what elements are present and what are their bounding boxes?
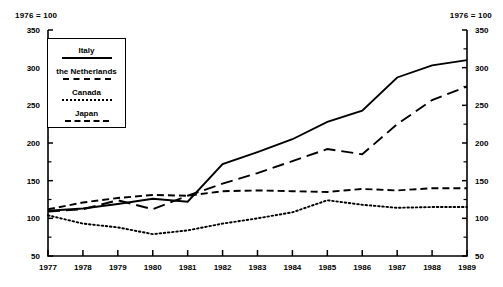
y-axis-tick-label-right: 100 xyxy=(475,214,489,223)
legend-entry-japan: Japan xyxy=(48,109,125,122)
x-axis-tick-label: 1985 xyxy=(318,263,336,272)
legend-line-swatch xyxy=(65,120,109,122)
y-axis-tick-label-left: 50 xyxy=(31,252,40,261)
y-axis-tick-label-right: 350 xyxy=(475,26,489,35)
y-axis-tick-label-right: 250 xyxy=(475,101,489,110)
legend-label: Canada xyxy=(48,88,125,98)
x-axis-tick-label: 1986 xyxy=(353,263,371,272)
chart-legend: Italythe NetherlandsCanadaJapan xyxy=(47,38,126,128)
legend-entry-canada: Canada xyxy=(48,88,125,101)
x-axis-tick-label: 1977 xyxy=(39,263,57,272)
legend-entry-italy: Italy xyxy=(48,46,125,59)
legend-entry-the-netherlands: the Netherlands xyxy=(48,67,125,80)
y-axis-tick-label-right: 300 xyxy=(475,64,489,73)
y-axis-tick-label-left: 150 xyxy=(27,177,41,186)
x-axis-tick-label: 1980 xyxy=(144,263,162,272)
legend-line-swatch xyxy=(62,99,112,101)
x-axis-tick-label: 1978 xyxy=(74,263,92,272)
y-axis-tick-label-left: 200 xyxy=(27,139,41,148)
y-axis-tick-label-left: 250 xyxy=(27,101,41,110)
series-line-the-netherlands xyxy=(48,188,467,209)
x-axis-tick-label: 1989 xyxy=(458,263,476,272)
y-axis-tick-label-left: 300 xyxy=(27,64,41,73)
chart-container: 1976 = 100 1976 = 100 505010010015015020… xyxy=(0,0,503,287)
x-axis-tick-label: 1979 xyxy=(109,263,127,272)
y-axis-tick-label-left: 100 xyxy=(27,214,41,223)
y-axis-tick-label-left: 350 xyxy=(27,26,41,35)
x-axis-tick-label: 1981 xyxy=(179,263,197,272)
x-axis-tick-label: 1987 xyxy=(388,263,406,272)
legend-line-swatch xyxy=(63,78,111,80)
x-axis-tick-label: 1988 xyxy=(423,263,441,272)
legend-label: the Netherlands xyxy=(48,67,125,77)
legend-line-swatch xyxy=(62,57,112,59)
x-axis-tick-label: 1983 xyxy=(249,263,267,272)
legend-label: Italy xyxy=(48,46,125,56)
x-axis-tick-label: 1984 xyxy=(284,263,302,272)
y-axis-tick-label-right: 200 xyxy=(475,139,489,148)
x-axis-tick-label: 1982 xyxy=(214,263,232,272)
y-axis-tick-label-right: 50 xyxy=(475,252,484,261)
legend-label: Japan xyxy=(48,109,125,119)
y-axis-tick-label-right: 150 xyxy=(475,177,489,186)
